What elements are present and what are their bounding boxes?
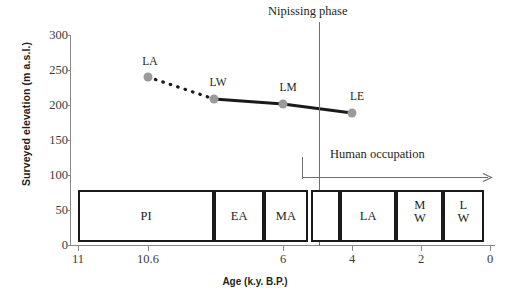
band-segment-pi[interactable]: PI	[78, 190, 214, 242]
cultural-period-band: PI EA MA LA M W L W	[78, 190, 484, 242]
y-tick-label: 0	[34, 239, 68, 252]
y-tick-label: 250	[34, 64, 68, 77]
y-tick-mark	[66, 35, 71, 36]
band-segment-label-line2: W	[445, 212, 481, 225]
y-tick-label: 200	[34, 99, 68, 112]
band-segment-label-line2: W	[398, 212, 441, 225]
data-point-label: LA	[142, 55, 157, 67]
band-segment-label-line1: M	[398, 199, 441, 212]
x-tick-mark	[78, 246, 79, 251]
chart-figure: Surveyed elevation (m a.s.l.) 300 250 20…	[0, 0, 510, 299]
data-point-label: LE	[350, 90, 364, 102]
band-segment-lw[interactable]: L W	[443, 190, 483, 242]
series-segment-solid	[214, 99, 283, 104]
human-occupation-label: Human occupation	[330, 147, 425, 162]
data-point-label: LM	[279, 81, 296, 93]
band-segment-label-line1: L	[445, 199, 481, 212]
y-tick-label: 50	[34, 204, 68, 217]
band-segment-label: LA	[360, 210, 377, 223]
band-segment-label: EA	[231, 210, 248, 223]
y-axis-ticks: 300 250 200 150 100 50 0	[28, 0, 68, 299]
data-point-label: LW	[209, 76, 226, 88]
y-tick-mark	[66, 175, 71, 176]
band-segment-label: MA	[276, 210, 296, 223]
x-axis-label: Age (k.y. B.P.)	[0, 276, 510, 287]
series-segment-dotted	[148, 77, 214, 99]
data-point-marker[interactable]	[144, 73, 153, 82]
x-tick-label: 0	[487, 252, 493, 267]
band-segment-mw[interactable]: M W	[396, 190, 443, 242]
x-tick-label: 4	[349, 252, 355, 267]
x-tick-mark	[352, 246, 353, 251]
x-tick-label: 11	[72, 252, 84, 267]
band-segment-ea[interactable]: EA	[214, 190, 264, 242]
y-tick-label: 100	[34, 169, 68, 182]
band-segment-label: PI	[141, 210, 152, 223]
x-tick-mark	[283, 246, 284, 251]
band-segment-ma[interactable]: MA	[264, 190, 308, 242]
x-tick-label: 10.6	[137, 252, 159, 267]
y-tick-mark	[66, 70, 71, 71]
y-tick-label: 300	[34, 29, 68, 42]
x-tick-label: 2	[418, 252, 424, 267]
data-point-marker[interactable]	[279, 100, 288, 109]
band-segment-unlabeled[interactable]	[311, 190, 340, 242]
y-tick-mark	[66, 140, 71, 141]
human-occupation-arrow-icon	[302, 173, 496, 182]
data-point-marker[interactable]	[210, 95, 219, 104]
x-tick-label: 6	[280, 252, 286, 267]
x-tick-mark	[148, 246, 149, 251]
x-tick-mark	[490, 246, 491, 251]
nipissing-phase-label: Nipissing phase	[268, 4, 348, 19]
y-tick-mark	[66, 210, 71, 211]
data-point-marker[interactable]	[348, 109, 357, 118]
y-tick-label: 150	[34, 134, 68, 147]
y-tick-mark	[66, 105, 71, 106]
series-segment-solid	[283, 104, 352, 113]
band-segment-la[interactable]: LA	[340, 190, 396, 242]
x-tick-mark	[421, 246, 422, 251]
